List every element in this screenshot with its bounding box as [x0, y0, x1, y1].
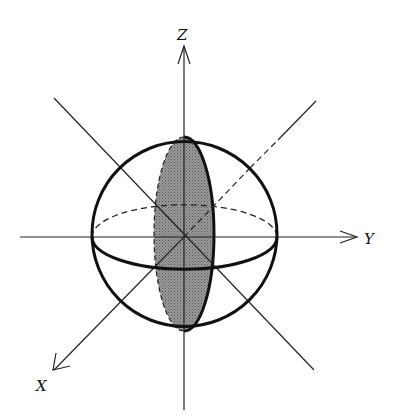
x-axis-back-end: [278, 101, 316, 140]
y-axis-label: Y: [364, 230, 376, 248]
x-axis-label: X: [35, 377, 48, 395]
sphere-diagram: Z Y X: [0, 0, 405, 418]
z-axis-label: Z: [176, 26, 188, 44]
x-axis-back-outer: [250, 140, 278, 168]
